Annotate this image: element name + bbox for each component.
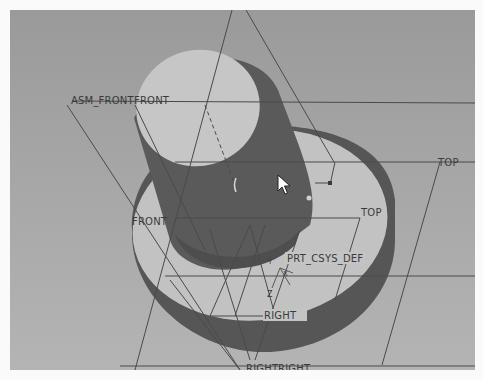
datum-label-top-b[interactable]: TOP: [360, 207, 382, 218]
svg-text:Z: Z: [267, 290, 273, 299]
datum-label-right-b[interactable]: RIGHT: [246, 363, 279, 370]
axis-endpoint-marker: [328, 181, 332, 185]
graphics-viewport[interactable]: ASM_FRONT FRONT TOP FRONT TOP PRT_CSYS_D…: [10, 10, 475, 370]
datum-label-front-b[interactable]: FRONT: [132, 216, 168, 227]
svg-text:FRONT: FRONT: [132, 216, 168, 227]
datum-label-asm-front[interactable]: ASM_FRONT: [71, 95, 134, 107]
point-marker: [307, 196, 312, 201]
svg-text:Y: Y: [267, 258, 273, 266]
svg-text:RIGHT: RIGHT: [264, 310, 297, 321]
datum-label-right-a[interactable]: RIGHT: [263, 309, 307, 321]
datum-label-csys[interactable]: PRT_CSYS_DEF: [285, 252, 365, 265]
datum-label-right-c[interactable]: RIGHT: [278, 363, 311, 370]
screenshot-page: ASM_FRONT FRONT TOP FRONT TOP PRT_CSYS_D…: [0, 0, 483, 380]
svg-text:RIGHT: RIGHT: [278, 363, 311, 370]
datum-label-top-a[interactable]: TOP: [437, 157, 459, 168]
datum-label-front-a[interactable]: FRONT: [134, 95, 170, 106]
svg-text:TOP: TOP: [360, 207, 382, 218]
svg-text:X: X: [283, 270, 288, 278]
svg-text:ASM_FRONT: ASM_FRONT: [71, 95, 134, 107]
model-canvas[interactable]: ASM_FRONT FRONT TOP FRONT TOP PRT_CSYS_D…: [10, 10, 475, 370]
svg-text:RIGHT: RIGHT: [246, 363, 279, 370]
svg-text:TOP: TOP: [437, 157, 459, 168]
svg-text:PRT_CSYS_DEF: PRT_CSYS_DEF: [287, 253, 363, 265]
svg-text:FRONT: FRONT: [134, 95, 170, 106]
